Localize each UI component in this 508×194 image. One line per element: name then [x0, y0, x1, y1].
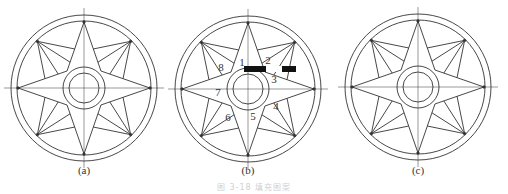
region-number-3: 3 — [271, 73, 277, 85]
region-number-2: 2 — [265, 54, 271, 66]
star-edge — [401, 104, 418, 153]
region-number-7: 7 — [215, 86, 221, 98]
tip-dot — [129, 133, 131, 135]
tip-dot — [417, 152, 419, 154]
tip-dot — [351, 86, 353, 88]
selection-toolbar — [244, 66, 296, 72]
tip-dot — [370, 132, 372, 134]
star-edge — [418, 104, 435, 153]
star-edge — [101, 71, 150, 88]
figure-caption: 图 3-18 填充图案 — [217, 181, 291, 192]
tip-dot — [17, 87, 19, 89]
star-edge — [435, 87, 484, 104]
figure-a-label: (a) — [78, 164, 90, 176]
tip-dot — [83, 153, 85, 155]
star-edge — [18, 71, 67, 88]
tip-dot — [129, 40, 131, 42]
tip-dot — [200, 41, 202, 43]
star-edge — [84, 22, 101, 71]
figure-c-label: (c) — [412, 164, 424, 176]
tip-dot — [463, 39, 465, 41]
star-edge — [18, 88, 67, 105]
star-edge — [67, 105, 84, 154]
figure-b-label: (b) — [242, 164, 255, 176]
star-edge — [84, 105, 101, 154]
tip-dot — [417, 20, 419, 22]
star-edge — [352, 87, 401, 104]
star-edge — [401, 21, 418, 70]
region-number-4: 4 — [273, 100, 279, 112]
star-edge — [231, 106, 248, 155]
star-edge — [248, 23, 265, 72]
region-number-1: 1 — [239, 56, 245, 68]
star-edge — [418, 21, 435, 70]
toolbar-bar-right — [282, 66, 296, 72]
star-edge — [352, 70, 401, 87]
region-number-5: 5 — [250, 110, 256, 122]
tip-dot — [313, 88, 315, 90]
tip-dot — [36, 40, 38, 42]
star-edge — [182, 72, 231, 89]
tip-dot — [483, 86, 485, 88]
tip-dot — [247, 22, 249, 24]
tip-dot — [181, 88, 183, 90]
star-edge — [435, 70, 484, 87]
star-edge — [182, 89, 231, 106]
tip-dot — [463, 132, 465, 134]
region-number-6: 6 — [225, 111, 231, 123]
tip-dot — [370, 39, 372, 41]
star-edge — [67, 22, 84, 71]
tip-dot — [36, 133, 38, 135]
tip-dot — [247, 154, 249, 156]
tip-dot — [83, 21, 85, 23]
tip-dot — [149, 87, 151, 89]
toolbar-bar-left — [244, 66, 266, 72]
tip-dot — [293, 41, 295, 43]
tip-dot — [293, 134, 295, 136]
tip-dot — [200, 134, 202, 136]
region-number-8: 8 — [218, 61, 224, 73]
star-edge — [101, 88, 150, 105]
